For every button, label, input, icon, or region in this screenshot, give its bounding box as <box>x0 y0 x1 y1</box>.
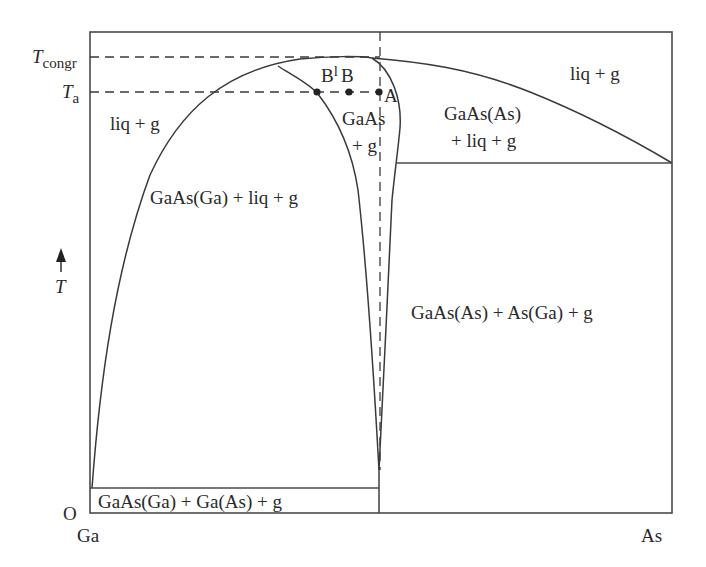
t-congr-label: Tcongr <box>32 46 77 71</box>
region-gaas-as-liq-g-line2: + liq + g <box>451 130 517 151</box>
origin-label: O <box>63 503 77 524</box>
region-gaas-g-line1: GaAs <box>342 108 385 129</box>
point-a-label: A <box>384 85 398 106</box>
point-a <box>375 88 382 95</box>
point-b <box>345 88 352 95</box>
region-gaas-as-liq-g-line1: GaAs(As) <box>444 103 521 125</box>
region-gaas-ga-liq-g: GaAs(Ga) + liq + g <box>150 187 299 209</box>
region-liq-g-right: liq + g <box>570 63 620 84</box>
x-left-label-ga: Ga <box>77 525 100 546</box>
point-b-prime <box>313 88 320 95</box>
t-a-label: Ta <box>62 81 80 106</box>
y-axis-label: T <box>55 276 67 297</box>
right-liquidus-curve <box>372 58 672 163</box>
region-gaas-g-line2: + g <box>352 135 377 156</box>
x-right-label-as: As <box>641 525 662 546</box>
phase-diagram: Bl B A Tcongr Ta T O Ga As liq + g liq +… <box>0 0 706 567</box>
arrow-up-icon <box>56 248 66 272</box>
region-gaas-ga-ga-as-g: GaAs(Ga) + Ga(As) + g <box>98 491 282 513</box>
region-gaas-as-as-ga-g: GaAs(As) + As(Ga) + g <box>411 302 593 324</box>
point-b-label: B <box>341 65 354 86</box>
region-liq-g-left: liq + g <box>110 113 160 134</box>
point-b-prime-label: Bl <box>321 63 338 86</box>
